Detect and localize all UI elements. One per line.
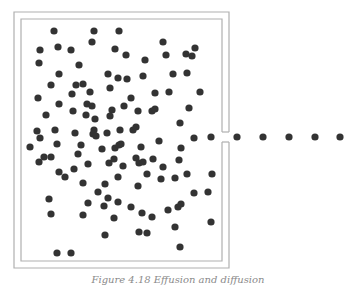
particle [134,182,141,189]
particle [127,94,134,101]
particle [79,80,86,87]
particle [77,141,84,148]
particle [183,170,190,177]
particle [114,74,121,81]
particle [47,210,54,217]
particle [132,123,139,130]
particle [114,173,121,180]
particle [47,81,54,88]
particle [141,56,148,63]
particle [176,119,183,126]
particle [74,150,81,157]
particle [79,179,86,186]
particle [165,88,172,95]
particle [26,143,33,150]
particle [139,158,146,165]
particle [94,188,101,195]
particle [67,46,74,53]
particle [110,155,117,162]
particle [175,156,182,163]
particle [88,38,95,45]
particle [177,200,184,207]
particle [88,102,95,109]
particle [137,143,144,150]
particle [185,104,192,111]
particle [120,102,127,109]
particle [116,126,123,133]
particle [75,61,82,68]
particle [101,180,108,187]
particle [104,194,111,201]
particle [190,189,197,196]
particle [53,140,60,147]
particle [33,127,40,134]
particle [101,231,108,238]
particle [84,160,91,167]
particle [208,170,215,177]
particle [115,27,122,34]
particle [190,134,197,141]
particle [100,202,107,209]
particle [183,69,190,76]
particle [71,129,78,136]
particle [139,72,146,79]
particle [55,70,62,77]
particle [171,174,178,181]
particle [151,105,158,112]
particle [111,45,118,52]
particle [123,75,130,82]
escaping-particle [207,133,214,140]
particle [157,175,164,182]
particle [70,165,77,172]
particle [143,170,150,177]
particle [34,94,41,101]
particle [110,214,117,221]
particle [35,158,42,165]
particle [104,70,111,77]
escaping-particle [311,133,318,140]
particle [103,129,110,136]
particle [84,199,91,206]
particle [55,168,62,175]
particle [79,211,86,218]
particle [50,27,57,34]
escaping-particle [259,133,266,140]
escaping-particle [285,133,292,140]
particle [138,209,145,216]
particle [151,89,158,96]
particle [155,137,162,144]
particle [149,155,156,162]
particle [54,43,61,50]
particle [122,51,129,58]
particle [162,51,169,58]
particle [72,81,79,88]
particle [119,162,126,169]
particle [114,198,121,205]
figure-caption: Figure 4.18 Effusion and diffusion [0,274,356,285]
particle [196,88,203,95]
particle [53,249,60,256]
particle [35,59,42,66]
particle [191,44,198,51]
particle [148,213,155,220]
particle [90,27,97,34]
particle [67,249,74,256]
particle [69,107,76,114]
particle [45,195,52,202]
particle [171,223,178,230]
particle [36,46,43,53]
particle [159,38,166,45]
particle [82,111,89,118]
particle [106,112,113,119]
gas-particles [26,27,215,256]
particle [135,228,142,235]
particle [86,88,93,95]
escaping-particle [336,133,343,140]
particle [169,70,176,77]
particle [98,145,105,152]
escaping-particle [233,133,240,140]
particle [207,218,214,225]
particle [92,132,99,139]
particle [51,126,58,133]
